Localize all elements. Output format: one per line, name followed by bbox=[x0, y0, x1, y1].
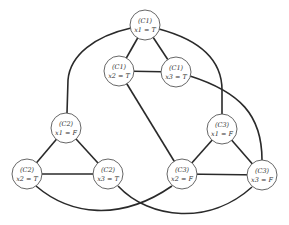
node-circle bbox=[12, 159, 42, 189]
node-literal-label: x2 = T bbox=[16, 175, 38, 183]
node-clause-label: (C1) bbox=[169, 64, 184, 72]
node-circle bbox=[207, 114, 237, 144]
node-c3-x2: (C3) x2 = F bbox=[167, 159, 197, 189]
node-c1-x3: (C1) x3 = T bbox=[161, 57, 191, 87]
node-literal-label: x3 = T bbox=[165, 73, 187, 81]
node-c2-x1: (C2) x1 = F bbox=[51, 113, 81, 143]
node-c2-x2: (C2) x2 = T bbox=[12, 159, 42, 189]
node-c1-x1: (C1) x1 = T bbox=[130, 10, 160, 40]
node-circle bbox=[104, 56, 134, 86]
node-circle bbox=[51, 113, 81, 143]
node-clause-label: (C2) bbox=[59, 120, 74, 128]
node-c2-x3: (C2) x3 = T bbox=[93, 159, 123, 189]
node-literal-label: x3 = T bbox=[97, 175, 119, 183]
node-literal-label: x3 = F bbox=[251, 176, 273, 184]
node-literal-label: x2 = T bbox=[108, 72, 130, 80]
node-clause-label: (C1) bbox=[112, 63, 127, 71]
graph-canvas: (C1) x1 = T (C1) x2 = T (C1) x3 = T (C2)… bbox=[0, 0, 289, 225]
node-clause-label: (C3) bbox=[215, 121, 230, 129]
node-literal-label: x1 = F bbox=[55, 129, 77, 137]
node-c3-x1: (C3) x1 = F bbox=[207, 114, 237, 144]
node-clause-label: (C1) bbox=[138, 17, 153, 25]
node-circle bbox=[167, 159, 197, 189]
node-literal-label: x2 = F bbox=[171, 175, 193, 183]
edge-c2x3-c3x3 bbox=[118, 186, 252, 214]
node-circle bbox=[161, 57, 191, 87]
node-literal-label: x1 = F bbox=[211, 130, 233, 138]
edge-c2x2-c3x2 bbox=[36, 186, 172, 210]
node-clause-label: (C2) bbox=[20, 166, 35, 174]
node-circle bbox=[130, 10, 160, 40]
node-literal-label: x1 = T bbox=[134, 26, 156, 34]
node-c3-x3: (C3) x3 = F bbox=[247, 160, 277, 190]
node-clause-label: (C3) bbox=[255, 167, 270, 175]
node-clause-label: (C2) bbox=[101, 166, 116, 174]
node-clause-label: (C3) bbox=[175, 166, 190, 174]
node-circle bbox=[93, 159, 123, 189]
node-circle bbox=[247, 160, 277, 190]
node-c1-x2: (C1) x2 = T bbox=[104, 56, 134, 86]
